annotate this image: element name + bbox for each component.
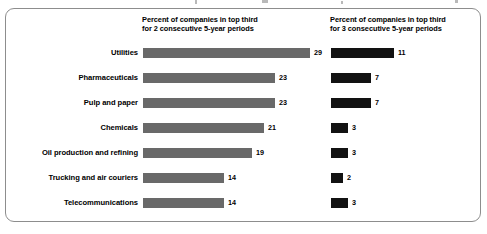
category-label: Oil production and refining <box>42 147 138 159</box>
chart-row: Pulp and paper237 <box>0 97 487 109</box>
bar-value-label: 14 <box>228 172 236 184</box>
category-label: Trucking and air couriers <box>49 172 138 184</box>
bar-value-label: 29 <box>314 47 322 59</box>
chart-row: Pharmaceuticals237 <box>0 72 487 84</box>
bar-series-1 <box>143 198 224 208</box>
bar-series-1 <box>143 73 275 83</box>
bar-series-2 <box>331 198 348 208</box>
bar-value-label: 21 <box>268 122 276 134</box>
chart-row: Telecommunications143 <box>0 197 487 209</box>
category-label: Telecommunications <box>64 197 138 209</box>
bar-series-1 <box>143 148 252 158</box>
bar-series-2 <box>331 173 343 183</box>
bar-value-label: 3 <box>352 147 356 159</box>
bar-value-label: 19 <box>256 147 264 159</box>
category-label: Pharmaceuticals <box>78 72 138 84</box>
bar-value-label: 7 <box>375 97 379 109</box>
bar-series-2 <box>331 123 348 133</box>
chart-row: Oil production and refining193 <box>0 147 487 159</box>
bar-value-label: 23 <box>279 72 287 84</box>
category-label: Chemicals <box>100 122 138 134</box>
bar-series-2 <box>331 73 371 83</box>
chart-row: Chemicals213 <box>0 122 487 134</box>
bar-value-label: 3 <box>352 122 356 134</box>
category-label: Utilities <box>111 47 138 59</box>
bar-chart-plot: Utilities2911Pharmaceuticals237Pulp and … <box>0 0 487 234</box>
bar-series-1 <box>143 173 224 183</box>
bar-value-label: 14 <box>228 197 236 209</box>
bar-value-label: 11 <box>398 47 406 59</box>
bar-series-1 <box>143 48 310 58</box>
bar-series-2 <box>331 48 394 58</box>
bar-value-label: 23 <box>279 97 287 109</box>
bar-series-2 <box>331 148 348 158</box>
bar-series-1 <box>143 98 275 108</box>
bar-value-label: 7 <box>375 72 379 84</box>
bar-value-label: 3 <box>352 197 356 209</box>
chart-row: Trucking and air couriers142 <box>0 172 487 184</box>
chart-row: Utilities2911 <box>0 47 487 59</box>
bar-series-1 <box>143 123 264 133</box>
bar-series-2 <box>331 98 371 108</box>
bar-value-label: 2 <box>347 172 351 184</box>
category-label: Pulp and paper <box>84 97 138 109</box>
